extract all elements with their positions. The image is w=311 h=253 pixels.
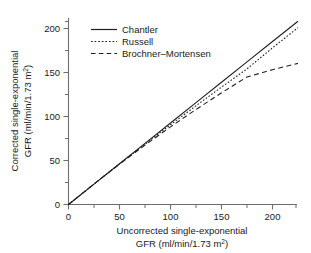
axis-group <box>68 18 297 205</box>
x-axis-title-line1: Uncorrected single-exponential <box>117 225 248 236</box>
x-axis-title-line2-suffix: ) <box>225 238 228 249</box>
legend-label-brochner-mortensen: Brochner–Mortensen <box>122 48 211 59</box>
x-ticklabel-100: 100 <box>163 211 179 222</box>
y-axis-title: Corrected single-exponential GFR (ml/min… <box>9 51 33 172</box>
legend-label-chantler: Chantler <box>122 24 158 35</box>
y-axis-title-line2: GFR (ml/min/1.73 m2) <box>22 65 34 157</box>
legend-label-russell: Russell <box>122 36 153 47</box>
y-ticklabel-50: 50 <box>49 155 60 166</box>
y-ticklabel-200: 200 <box>44 23 60 34</box>
x-ticklabel-50: 50 <box>114 211 125 222</box>
y-axis-ticks <box>64 22 69 205</box>
y-axis-title-line2-suffix: ) <box>22 65 33 68</box>
x-axis-title-line2-prefix: GFR (ml/min/1.73 m <box>136 238 222 249</box>
x-axis-title-line2: GFR (ml/min/1.73 m2) <box>136 238 228 250</box>
y-axis-title-line1: Corrected single-exponential <box>9 51 20 172</box>
x-ticklabel-0: 0 <box>66 211 71 222</box>
y-ticklabel-0: 0 <box>55 199 60 210</box>
x-ticklabel-150: 150 <box>214 211 230 222</box>
y-axis-tick-labels: 0 50 100 150 200 <box>44 23 60 210</box>
y-ticklabel-150: 150 <box>44 67 60 78</box>
y-ticklabel-100: 100 <box>44 111 60 122</box>
y-axis-title-line2-prefix: GFR (ml/min/1.73 m <box>22 72 33 158</box>
x-axis-ticks <box>69 205 297 210</box>
series-line-brochner-mortensen <box>69 63 299 204</box>
figure-container: 0 50 100 150 200 0 50 100 150 200 <box>0 0 311 253</box>
x-axis-title: Uncorrected single-exponential GFR (ml/m… <box>117 225 248 249</box>
legend: Chantler Russell Brochner–Mortensen <box>91 24 211 59</box>
x-axis-tick-labels: 0 50 100 150 200 <box>66 211 281 222</box>
gfr-comparison-chart: 0 50 100 150 200 0 50 100 150 200 <box>0 0 311 253</box>
x-ticklabel-200: 200 <box>265 211 281 222</box>
